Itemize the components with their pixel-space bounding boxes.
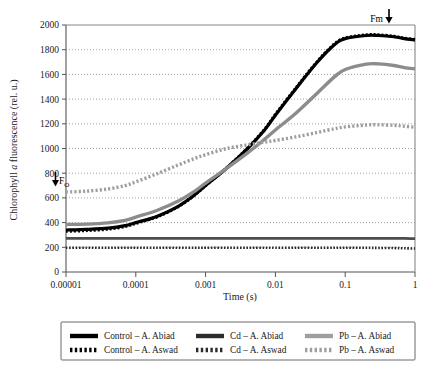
series-line bbox=[66, 248, 415, 249]
y-axis-title-part1: Chlorophyll bbox=[8, 172, 19, 221]
y-tick-label: 0 bbox=[54, 267, 59, 277]
x-tick-label: 0.1 bbox=[339, 280, 351, 290]
y-axis-title: Chlorophyll a fluorescence (rel. u.) bbox=[8, 79, 20, 220]
legend-label: Pb – A. Aswad bbox=[339, 345, 395, 355]
y-tick-label: 2000 bbox=[40, 20, 59, 30]
y-tick-label: 200 bbox=[45, 243, 60, 253]
fm-annotation-label: Fm bbox=[370, 14, 383, 24]
series-line bbox=[66, 64, 415, 225]
x-tick-label: 0.01 bbox=[267, 280, 284, 290]
y-tick-label: 1200 bbox=[40, 119, 59, 129]
legend-label: Control – A. Aswad bbox=[104, 345, 178, 355]
legend-label: Pb – A. Abiad bbox=[339, 331, 392, 341]
y-tick-label: 1400 bbox=[40, 95, 59, 105]
y-axis: 0200400600800100012001400160018002000 bbox=[40, 20, 66, 277]
fm-annotation: Fm bbox=[370, 9, 392, 24]
chlorophyll-fluorescence-chart: 0200400600800100012001400160018002000 0.… bbox=[0, 0, 444, 371]
y-tick-label: 1000 bbox=[40, 144, 59, 154]
y-tick-label: 800 bbox=[45, 169, 60, 179]
y-axis-title-part2: fluorescence (rel. u.) bbox=[8, 79, 20, 162]
x-tick-label: 1 bbox=[413, 280, 418, 290]
fo-annotation-label: FO bbox=[59, 176, 69, 189]
x-axis: 0.000010.00010.0010.010.11 bbox=[51, 272, 418, 290]
y-tick-label: 1800 bbox=[40, 45, 59, 55]
legend-label: Control – A. Abiad bbox=[104, 331, 175, 341]
y-tick-label: 400 bbox=[45, 218, 60, 228]
legend-label: Cd – A. Aswad bbox=[230, 345, 287, 355]
data-series-group bbox=[66, 35, 415, 249]
figure-container: 0200400600800100012001400160018002000 0.… bbox=[0, 0, 444, 371]
x-tick-label: 0.00001 bbox=[51, 280, 82, 290]
gridlines bbox=[66, 50, 415, 248]
y-tick-label: 1600 bbox=[40, 70, 59, 80]
legend-label: Cd – A. Abiad bbox=[230, 331, 284, 341]
x-tick-label: 0.0001 bbox=[123, 280, 149, 290]
x-tick-label: 0.001 bbox=[195, 280, 217, 290]
y-tick-label: 600 bbox=[45, 193, 60, 203]
fm-arrow-down-icon bbox=[385, 9, 392, 24]
x-axis-title: Time (s) bbox=[223, 291, 257, 303]
